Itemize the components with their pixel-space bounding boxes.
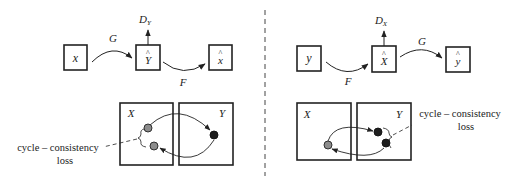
hat-icon: ^: [219, 49, 223, 58]
edge-g-label: G: [109, 32, 117, 44]
mapped-point: [210, 131, 218, 139]
edge-f-arrow: [163, 62, 205, 71]
node-x: x: [64, 45, 87, 70]
edge-g-label: G: [418, 35, 426, 47]
domain-y-label: Y: [219, 107, 227, 119]
source-point: [324, 141, 332, 149]
node-y-hat: y ^: [446, 47, 470, 72]
forward-map-arrow: [150, 114, 210, 130]
source-point: [144, 124, 152, 132]
leader-line: [393, 125, 412, 135]
node-y-label: y: [305, 51, 312, 65]
node-x-label: x: [72, 51, 79, 65]
cycle-consistency-label: cycle – consistency: [17, 142, 99, 153]
hat-icon: ^: [146, 49, 150, 58]
edge-f-arrow: [326, 62, 368, 72]
node-x-hat: X ^: [372, 46, 396, 72]
domain-y-box: [357, 103, 411, 160]
node-y: y: [297, 46, 321, 71]
backward-map-arrow: [160, 140, 214, 157]
node-x-hat: x ^: [209, 45, 232, 70]
backward-map-arrow: [332, 148, 384, 155]
reconstructed-point: [374, 128, 382, 136]
left-panel: x G Y ^ DY F x ^ X Y: [17, 13, 233, 166]
domain-y-label: Y: [396, 108, 404, 120]
discriminator-dy-label: DY: [138, 13, 152, 27]
edge-f-label: F: [179, 76, 187, 88]
domain-x-label: X: [127, 107, 136, 119]
cycle-gan-diagram: x G Y ^ DY F x ^ X Y: [0, 0, 517, 176]
loss-label: loss: [458, 121, 474, 132]
discriminator-dx-label: DX: [374, 14, 388, 28]
brace-icon: [138, 129, 146, 147]
edge-g-arrow: [92, 51, 132, 62]
cycle-consistency-label: cycle – consistency: [419, 108, 501, 119]
loss-label: loss: [57, 155, 73, 166]
hat-icon: ^: [382, 50, 386, 59]
node-y-hat: Y ^: [136, 45, 160, 70]
domain-x-label: X: [303, 108, 312, 120]
right-panel: y F X ^ DX G y ^ X Y: [297, 14, 502, 160]
hat-icon: ^: [456, 50, 460, 59]
reconstructed-point: [150, 142, 158, 150]
edge-g-arrow: [400, 50, 442, 58]
edge-f-label: F: [344, 75, 352, 87]
